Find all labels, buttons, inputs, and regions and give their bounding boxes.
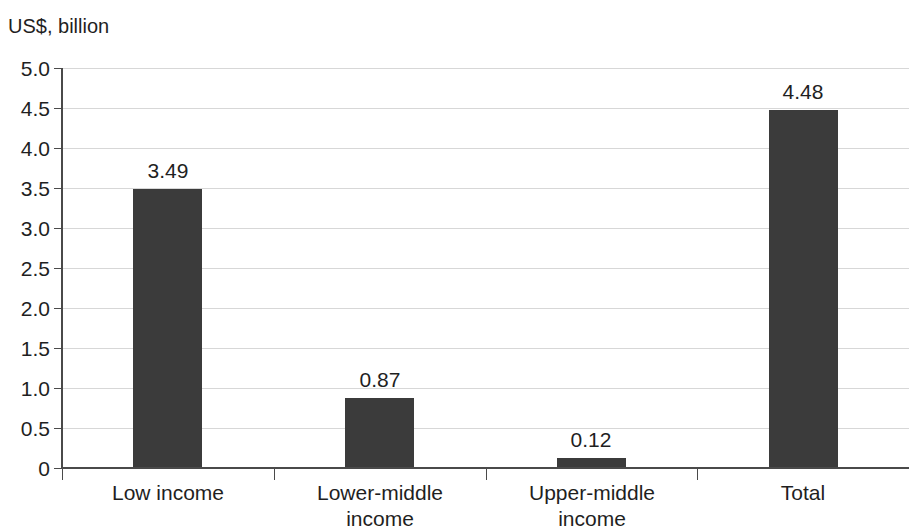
x-axis-category-label-line: Lower-middle [274,480,486,506]
gridline [62,68,909,69]
x-axis-category-label: Upper-middleincome [486,480,698,530]
y-axis-tick-label: 5.0 [0,58,50,79]
y-axis-tick-label: 2.0 [0,298,50,319]
y-axis-tick-mark [54,228,62,229]
y-axis-tick-label: 3.0 [0,218,50,239]
y-axis-tick-label: 2.5 [0,258,50,279]
y-axis-tick-mark [54,108,62,109]
y-axis-tick-label: 4.0 [0,138,50,159]
y-axis-tick-mark [54,308,62,309]
y-axis-tick-label: 4.5 [0,98,50,119]
bar-value-label: 0.87 [320,369,440,390]
y-axis-tick-mark [54,428,62,429]
y-axis-tick-mark [54,348,62,349]
bar [769,110,838,468]
bar [345,398,414,468]
x-axis-category-label: Lower-middleincome [274,480,486,530]
y-axis-unit-label: US$, billion [8,14,109,38]
x-axis-tick-mark [697,469,698,480]
x-axis-category-label-line: income [274,506,486,530]
bar-value-label: 0.12 [531,429,651,450]
x-axis-tick-mark [486,469,487,480]
y-axis-tick-label: 3.5 [0,178,50,199]
y-axis-tick-mark [54,268,62,269]
x-axis-tick-mark [62,469,63,480]
y-axis-tick-mark [54,68,62,69]
y-axis-tick-mark [54,388,62,389]
y-axis-tick-label: 1.0 [0,378,50,399]
bar-value-label: 3.49 [108,160,228,181]
y-axis-tick-label: 1.5 [0,338,50,359]
x-axis-category-label-line: Upper-middle [486,480,698,506]
x-axis-tick-mark [274,469,275,480]
x-axis-category-label: Total [697,480,909,506]
x-axis-category-label-line: Low income [62,480,274,506]
bar [133,189,202,468]
y-axis-tick-mark [54,188,62,189]
gridline [62,108,909,109]
bar-value-label: 4.48 [743,81,863,102]
x-axis-category-label-line: Total [697,480,909,506]
x-axis-category-label-line: income [486,506,698,530]
y-axis-tick-label: 0.5 [0,418,50,439]
x-axis-category-label: Low income [62,480,274,506]
bar-chart: US$, billion 5.04.54.03.53.02.52.01.51.0… [0,0,909,530]
y-axis-tick-mark [54,148,62,149]
y-axis-tick-label: 0 [0,458,50,479]
y-axis-tick-mark [54,468,62,469]
